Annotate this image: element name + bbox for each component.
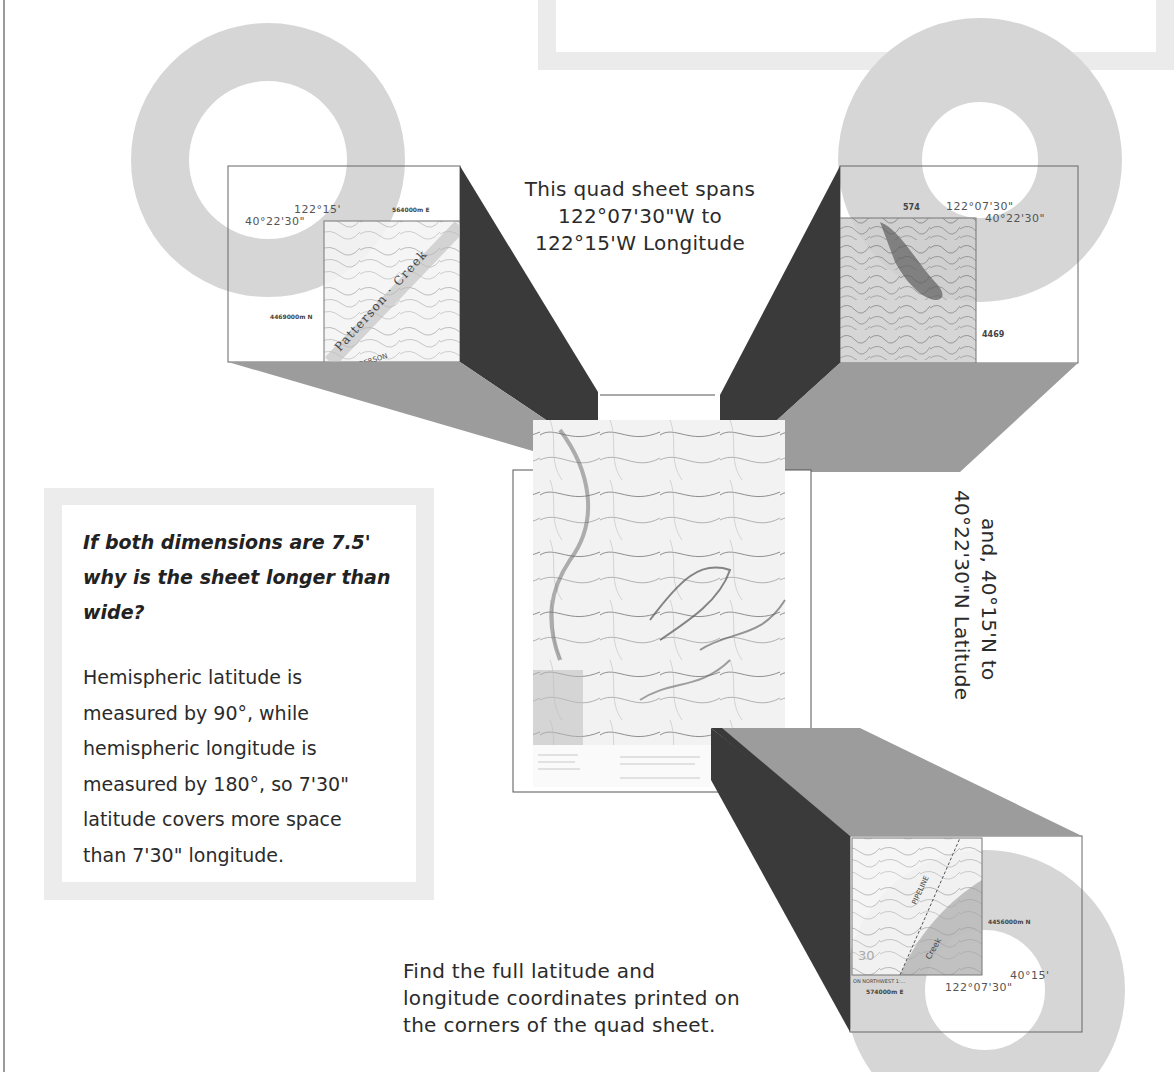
callout-top-left: Patterson · Creek ANDERSON: [160, 52, 598, 470]
callout-top-right: [720, 60, 1080, 472]
caption-line: longitude coordinates printed on: [403, 985, 763, 1012]
caption-line: and, 40°15'N to: [975, 490, 1002, 740]
coord-bottom-right-latitude: 40°15': [1010, 969, 1050, 982]
question-heading: If both dimensions are 7.5' why is the s…: [83, 525, 403, 630]
answer-line: measured by 180°, so 7'30": [83, 767, 403, 803]
answer-line: than 7'30" longitude.: [83, 838, 403, 874]
question-line: wide?: [83, 595, 403, 630]
caption-line: 122°07'30"W to: [520, 203, 760, 230]
coord-bottom-right-longitude: 122°07'30": [945, 981, 1013, 994]
coord-top-left-latitude: 40°22'30": [245, 215, 305, 228]
callout-bottom-right: PIPELINE Creek 30: [711, 728, 1085, 1072]
caption-line: Find the full latitude and: [403, 958, 763, 985]
longitude-span-caption: This quad sheet spans 122°07'30"W to 122…: [520, 176, 760, 257]
utm-easting-bottom-right: 574000m E: [866, 988, 904, 995]
map-corner-top-right: [840, 218, 976, 363]
answer-line: measured by 90°, while: [83, 696, 403, 732]
latitude-span-caption: and, 40°15'N to 40°22'30"N Latitude: [942, 490, 1002, 740]
margin-note-bottom-right: ON NORTHWEST 1:...: [853, 978, 905, 984]
coord-top-right-latitude: 40°22'30": [985, 212, 1045, 225]
caption-line: 40°22'30"N Latitude: [948, 490, 975, 740]
utm-northing-top-right: 4469: [982, 330, 1004, 339]
instruction-caption: Find the full latitude and longitude coo…: [403, 958, 763, 1039]
svg-text:30: 30: [858, 948, 875, 963]
answer-text: Hemispheric latitude is measured by 90°,…: [83, 660, 403, 873]
utm-easting-top-right: 574: [903, 203, 920, 212]
question-line: why is the sheet longer than: [83, 560, 403, 595]
caption-line: This quad sheet spans: [520, 176, 760, 203]
utm-easting-top-left: 564000m E: [392, 206, 430, 213]
answer-line: latitude covers more space: [83, 802, 403, 838]
caption-line: 122°15'W Longitude: [520, 230, 760, 257]
utm-northing-top-left: 4469000m N: [270, 313, 313, 320]
question-line: If both dimensions are 7.5': [83, 525, 403, 560]
answer-line: hemispheric longitude is: [83, 731, 403, 767]
answer-line: Hemispheric latitude is: [83, 660, 403, 696]
caption-line: the corners of the quad sheet.: [403, 1012, 763, 1039]
utm-northing-bottom-right: 4456000m N: [988, 918, 1031, 925]
